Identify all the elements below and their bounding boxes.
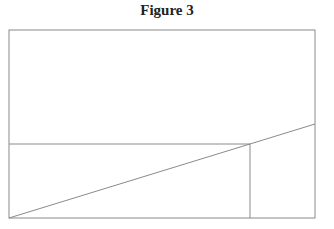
outer-frame xyxy=(9,30,315,218)
diagonal-line xyxy=(9,124,315,218)
figure-diagram xyxy=(0,0,334,229)
